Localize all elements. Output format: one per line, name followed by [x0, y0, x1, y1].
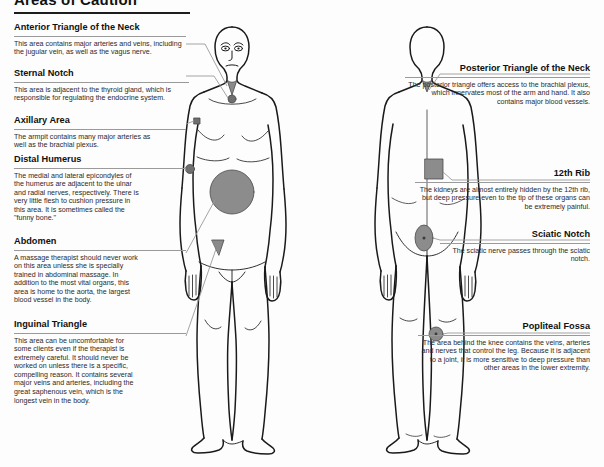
heading-rule: [415, 182, 590, 183]
body-distal-humerus: The medial and lateral epicondyles of th…: [14, 172, 142, 224]
heading-sternal-notch: Sternal Notch: [14, 68, 189, 79]
body-axillary-area: The armpit contains many major arteries …: [14, 133, 154, 150]
block-posterior-triangle-of-the-neck: Posterior Triangle of the Neck The poste…: [405, 63, 590, 106]
body-sciatic-notch: The sciatic nerve passes through the sci…: [440, 247, 590, 264]
block-anterior-triangle-of-the-neck: Anterior Triangle of the Neck This area …: [14, 22, 186, 57]
marker-anterior-triangle: [227, 80, 237, 95]
block-sternal-notch: Sternal Notch This area is adjacent to t…: [14, 68, 189, 103]
heading-rule: [14, 168, 186, 169]
heading-rule: [14, 36, 186, 37]
block-distal-humerus: Distal Humerus The medial and lateral ep…: [14, 154, 142, 223]
heading-rule: [14, 82, 189, 83]
marker-inguinal-triangle: [212, 240, 224, 255]
heading-popliteal-fossa: Popliteal Fossa: [418, 321, 590, 332]
heading-posterior-triangle-of-the-neck: Posterior Triangle of the Neck: [405, 63, 590, 74]
heading-sciatic-notch: Sciatic Notch: [440, 229, 590, 240]
heading-axillary-area: Axillary Area: [14, 115, 154, 126]
body-abdomen: A massage therapist should never work on…: [14, 254, 142, 306]
heading-rule: [405, 77, 590, 78]
marker-sternal-notch: [228, 95, 236, 103]
block-axillary-area: Axillary Area The armpit contains many m…: [14, 115, 154, 150]
marker-axillary-area: [194, 118, 200, 124]
heading-rule: [440, 243, 590, 244]
body-anterior-triangle-of-the-neck: This area contains major arteries and ve…: [14, 40, 186, 57]
block-sciatic-notch: Sciatic Notch The sciatic nerve passes t…: [440, 229, 590, 264]
heading-rule: [418, 335, 590, 336]
heading-12th-rib: 12th Rib: [415, 168, 590, 179]
heading-rule: [14, 250, 186, 251]
heading-anterior-triangle-of-the-neck: Anterior Triangle of the Neck: [14, 22, 186, 33]
marker-abdomen: [210, 170, 254, 214]
areas-of-caution-diagram: Areas of Caution: [0, 0, 604, 467]
block-popliteal-fossa: Popliteal Fossa The area behind the knee…: [418, 321, 590, 373]
heading-inguinal-triangle: Inguinal Triangle: [14, 319, 137, 330]
block-12th-rib: 12th Rib The kidneys are almost entirely…: [415, 168, 590, 211]
heading-rule: [14, 333, 186, 334]
block-abdomen: Abdomen A massage therapist should never…: [14, 236, 142, 305]
block-inguinal-triangle: Inguinal Triangle This area can be uncom…: [14, 319, 137, 405]
body-sternal-notch: This area is adjacent to the thyroid gla…: [14, 86, 189, 103]
body-popliteal-fossa: The area behind the knee contains the ve…: [418, 339, 590, 373]
heading-rule: [14, 129, 186, 130]
marker-distal-humerus: [186, 165, 195, 174]
heading-distal-humerus: Distal Humerus: [14, 154, 142, 165]
body-12th-rib: The kidneys are almost entirely hidden b…: [415, 186, 590, 212]
body-posterior-triangle-of-the-neck: The posterior triangle offers access to …: [405, 81, 590, 107]
body-inguinal-triangle: This area can be uncomfortable for some …: [14, 337, 137, 406]
heading-abdomen: Abdomen: [14, 236, 142, 247]
